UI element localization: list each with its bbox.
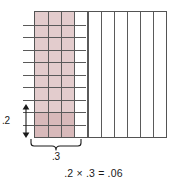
grid-vline <box>153 12 154 137</box>
grid-vline <box>87 12 88 137</box>
grid-vline <box>140 12 141 137</box>
grid-hline <box>23 50 86 51</box>
double-arrow-vertical-icon <box>20 104 32 138</box>
grid-hline <box>23 25 86 26</box>
horizontal-measure: .3 <box>30 139 82 167</box>
vertical-measure: .2 <box>2 104 36 144</box>
vertical-measure-label: .2 <box>2 115 10 126</box>
grid-hline <box>23 75 86 76</box>
grid-vline <box>101 12 102 137</box>
horizontal-measure-label: .3 <box>30 151 82 162</box>
grid-vline <box>127 12 128 137</box>
curly-brace-icon <box>30 139 82 151</box>
grid-hline <box>23 62 86 63</box>
grid-vline <box>114 12 115 137</box>
area-model-grid <box>34 11 167 138</box>
grid-hline <box>23 37 86 38</box>
figure-page: .2 .3 .2 × .3 = .06 <box>0 0 187 190</box>
grid-hline <box>23 87 86 88</box>
grid-hline <box>23 100 86 101</box>
equation-text: .2 × .3 = .06 <box>0 167 187 179</box>
